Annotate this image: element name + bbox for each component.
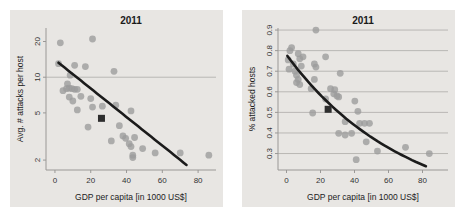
scatter-point — [57, 39, 64, 46]
scatter-point — [87, 95, 94, 102]
scatter-point — [335, 94, 342, 101]
right-chart-panel: 0204060800.30.40.50.60.70.80.92011GDP pe… — [242, 10, 455, 207]
scatter-point — [296, 55, 303, 62]
x-tick-label: 20 — [86, 176, 95, 185]
scatter-point — [351, 98, 358, 105]
scatter-point — [355, 108, 362, 115]
x-tick-label: 60 — [158, 176, 167, 185]
scatter-point — [348, 130, 355, 137]
scatter-point — [71, 62, 78, 69]
scatter-point — [205, 152, 212, 159]
scatter-point — [128, 107, 135, 114]
y-tick-label: 0.6 — [266, 86, 275, 98]
scatter-point — [296, 81, 303, 88]
scatter-point — [363, 138, 370, 145]
scatter-point — [342, 132, 349, 139]
scatter-point — [287, 47, 294, 54]
scatter-point — [335, 130, 342, 137]
y-tick-label: 0.4 — [266, 127, 275, 139]
scatter-point — [111, 68, 118, 75]
scatter-point — [311, 76, 318, 83]
y-tick-label: 2 — [34, 157, 43, 162]
x-axis-title: GDP per capita [in 1000 US$] — [75, 192, 187, 202]
highlight-square-marker — [325, 106, 332, 113]
scatter-point — [89, 36, 96, 43]
y-tick-label: 5 — [34, 110, 43, 115]
y-tick-label: 0.5 — [266, 106, 275, 118]
x-tick-label: 20 — [316, 176, 325, 185]
y-tick-label: 10 — [34, 72, 43, 81]
x-tick-label: 40 — [350, 176, 359, 185]
scatter-point — [74, 107, 81, 114]
y-axis-title: Avg. # attacks per host — [15, 55, 25, 142]
scatter-point — [85, 124, 92, 131]
scatter-point — [337, 70, 344, 77]
x-tick-label: 0 — [53, 176, 58, 185]
left-chart-panel: 0204060802510202011GDP per capita [in 10… — [10, 10, 223, 207]
x-tick-label: 60 — [384, 176, 393, 185]
right-scatter-chart: 0204060800.30.40.50.60.70.80.92011GDP pe… — [242, 10, 455, 207]
chart-title: 2011 — [120, 15, 142, 26]
scatter-point — [66, 94, 73, 101]
highlight-square-marker — [98, 115, 105, 122]
scatter-point — [402, 144, 409, 151]
scatter-point — [128, 143, 135, 150]
y-axis-title: % attacked hosts — [247, 67, 257, 132]
scatter-point — [286, 66, 293, 73]
scatter-point — [366, 120, 373, 127]
x-tick-label: 0 — [284, 176, 289, 185]
x-tick-label: 40 — [122, 176, 131, 185]
left-scatter-chart: 0204060802510202011GDP per capita [in 10… — [10, 10, 223, 207]
scatter-point — [77, 93, 84, 100]
chart-title: 2011 — [352, 15, 374, 26]
scatter-point — [82, 63, 89, 70]
scatter-point — [122, 135, 129, 142]
x-axis-title: GDP per capita [in 1000 US$] — [307, 192, 419, 202]
scatter-point — [116, 122, 123, 129]
scatter-point — [89, 104, 96, 111]
scatter-point — [108, 138, 115, 145]
scatter-point — [313, 27, 320, 34]
x-tick-label: 80 — [194, 176, 203, 185]
scatter-point — [309, 110, 316, 117]
y-tick-label: 20 — [34, 37, 43, 46]
y-tick-label: 0.8 — [266, 45, 275, 57]
y-tick-label: 0.7 — [266, 65, 275, 77]
scatter-point — [313, 64, 320, 71]
y-tick-label: 0.9 — [266, 24, 275, 36]
scatter-point — [74, 86, 81, 93]
scatter-point — [99, 103, 106, 110]
scatter-point — [374, 148, 381, 155]
scatter-point — [139, 145, 146, 152]
scatter-point — [129, 154, 136, 161]
scatter-point — [353, 156, 360, 163]
scatter-point — [152, 149, 159, 156]
scatter-point — [298, 63, 305, 70]
trend-line — [59, 63, 187, 165]
y-tick-label: 0.3 — [266, 147, 275, 159]
scatter-point — [177, 149, 184, 156]
scatter-point — [322, 53, 329, 60]
x-tick-label: 80 — [418, 176, 427, 185]
scatter-point — [131, 134, 138, 141]
scatter-point — [426, 150, 433, 157]
